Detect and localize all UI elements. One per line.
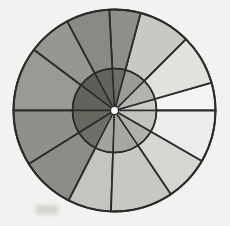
- polar-pie-chart: [0, 0, 230, 226]
- center-hub: [111, 107, 119, 115]
